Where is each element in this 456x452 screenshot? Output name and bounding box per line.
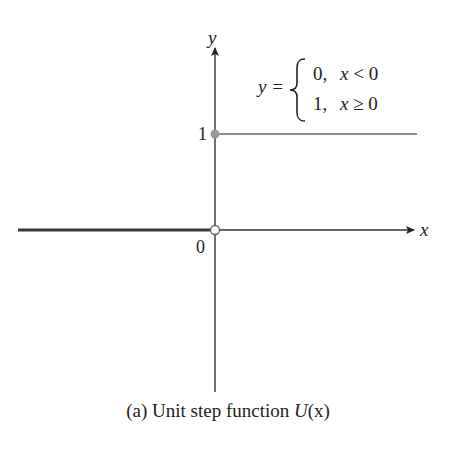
origin-label: 0 [196,237,205,257]
x-axis-label: x [419,219,429,240]
equation-lhs: y = [256,76,284,97]
curly-brace-icon [290,59,305,121]
y-tick-label-1: 1 [198,124,207,144]
y-axis-label: y [206,27,217,48]
caption-prefix: (a) Unit step function [126,400,294,421]
figure-caption: (a) Unit step function U(x) [0,400,456,422]
case1-condition: x < 0 [339,63,378,84]
caption-function-name: U [294,400,308,421]
case1-value: 0, [313,63,327,84]
filled-dot-icon [211,130,220,139]
case2-value: 1, [313,93,327,114]
caption-argument: (x) [308,400,330,421]
plot-area: y x 0 1 y = 0, x < 0 1, x ≥ 0 [0,0,456,452]
case2-condition: x ≥ 0 [339,93,378,114]
step-function-figure: y x 0 1 y = 0, x < 0 1, x ≥ 0 (a) Unit s… [0,0,456,452]
piecewise-equation: y = 0, x < 0 1, x ≥ 0 [256,59,378,121]
open-dot-icon [211,226,220,235]
